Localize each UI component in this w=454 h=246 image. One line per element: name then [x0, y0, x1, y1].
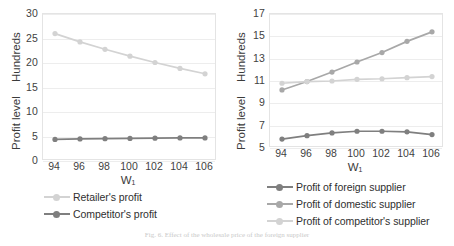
left-y-axis-unit-label: Hundreds — [10, 32, 22, 82]
figure-container: Profit level Hundreds 051015202530 94969… — [0, 0, 454, 246]
left-chart-series-layer — [43, 14, 215, 159]
data-point — [329, 78, 334, 83]
right-x-axis-label: W₁ — [348, 161, 363, 173]
data-point — [77, 39, 82, 44]
x-axis-tick-label: 98 — [325, 147, 337, 159]
legend-marker-icon — [267, 199, 293, 209]
x-axis-tick-label: 98 — [98, 160, 110, 172]
legend-item-label: Profit of domestic supplier — [296, 198, 415, 210]
x-axis-tick-label: 104 — [170, 160, 188, 172]
y-axis-tick-label: 30 — [26, 7, 38, 19]
data-point — [77, 136, 82, 141]
y-axis-tick-label: 25 — [26, 32, 38, 44]
right-chart-y-axis-title: Profit level — [235, 96, 247, 150]
x-axis-tick-label: 106 — [422, 147, 440, 159]
data-point — [304, 79, 309, 84]
legend-marker-icon — [44, 192, 70, 202]
data-point — [177, 135, 182, 140]
left-chart-y-axis-title: Profit level — [10, 96, 22, 150]
legend-item[interactable]: Competitor's profit — [44, 207, 157, 221]
legend-marker-icon — [44, 209, 70, 219]
y-axis-tick-label: 10 — [26, 105, 38, 117]
y-axis-tick-label: 9 — [259, 96, 265, 108]
series-1 — [279, 129, 434, 142]
right-chart-y-axis-unit: Hundreds — [235, 32, 247, 82]
y-axis-tick-label: 5 — [259, 141, 265, 153]
y-axis-tick-label: 0 — [32, 154, 38, 166]
data-point — [177, 66, 182, 71]
x-axis-tick-label: 102 — [372, 147, 390, 159]
x-axis-tick-label: 106 — [195, 160, 213, 172]
data-point — [379, 76, 384, 81]
legend-marker-icon — [267, 182, 293, 192]
x-axis-tick-label: 94 — [48, 160, 60, 172]
figure-caption: Fig. 6. Effect of the wholesale price of… — [0, 231, 454, 239]
y-axis-tick-label: 13 — [253, 52, 265, 64]
x-axis-tick-label: 100 — [120, 160, 138, 172]
data-point — [379, 50, 384, 55]
data-point — [429, 132, 434, 137]
left-chart-legend: Retailer's profitCompetitor's profit — [44, 190, 157, 224]
data-point — [127, 54, 132, 59]
x-axis-tick-label: 96 — [300, 147, 312, 159]
series-1 — [52, 31, 207, 76]
legend-item-label: Profit of foreign supplier — [296, 181, 406, 193]
legend-item-label: Retailer's profit — [73, 191, 142, 203]
right-chart-x-axis-title: W₁ — [348, 161, 363, 173]
data-point — [152, 60, 157, 65]
data-point — [152, 136, 157, 141]
series-2 — [52, 135, 207, 142]
data-point — [304, 133, 309, 138]
x-axis-tick-label: 96 — [73, 160, 85, 172]
legend-item[interactable]: Retailer's profit — [44, 190, 157, 204]
x-axis-tick-label: 94 — [275, 147, 287, 159]
x-axis-tick-label: 100 — [347, 147, 365, 159]
data-point — [429, 74, 434, 79]
legend-item-label: Competitor's profit — [73, 208, 157, 220]
y-axis-tick-label: 15 — [253, 29, 265, 41]
x-axis-tick-label: 104 — [397, 147, 415, 159]
y-axis-tick-label: 20 — [26, 56, 38, 68]
data-point — [102, 47, 107, 52]
y-axis-tick-label: 11 — [254, 74, 265, 86]
data-point — [52, 31, 57, 36]
legend-item[interactable]: Profit of domestic supplier — [267, 197, 430, 211]
data-point — [329, 69, 334, 74]
data-point — [52, 137, 57, 142]
series-2 — [279, 29, 434, 92]
chart-panel-right: Profit level Hundreds 57911131517 949698… — [227, 0, 454, 230]
data-point — [354, 59, 359, 64]
data-point — [429, 29, 434, 34]
left-y-axis-label: Profit level — [10, 96, 22, 150]
y-axis-tick-label: 5 — [32, 130, 38, 142]
data-point — [354, 77, 359, 82]
left-chart-x-axis-title: W₁ — [121, 174, 136, 186]
legend-item[interactable]: Profit of competitor's supplier — [267, 214, 430, 228]
y-axis-tick-label: 15 — [26, 81, 38, 93]
data-point — [379, 129, 384, 134]
left-chart-plot-area — [42, 13, 216, 160]
x-axis-tick-label: 102 — [145, 160, 163, 172]
data-point — [202, 71, 207, 76]
data-point — [102, 136, 107, 141]
data-point — [127, 136, 132, 141]
data-point — [404, 129, 409, 134]
legend-marker-icon — [267, 216, 293, 226]
right-chart-plot-area — [269, 13, 443, 147]
left-x-axis-label: W₁ — [121, 174, 136, 186]
data-point — [202, 135, 207, 140]
y-axis-tick-label: 17 — [253, 7, 265, 19]
right-chart-legend: Profit of foreign supplierProfit of dome… — [267, 180, 430, 231]
data-point — [329, 130, 334, 135]
right-y-axis-label: Profit level — [235, 96, 247, 150]
chart-panel-left: Profit level Hundreds 051015202530 94969… — [0, 0, 227, 230]
right-y-axis-unit-label: Hundreds — [235, 32, 247, 82]
data-point — [279, 81, 284, 86]
data-point — [279, 87, 284, 92]
data-point — [404, 75, 409, 80]
data-point — [279, 136, 284, 141]
legend-item[interactable]: Profit of foreign supplier — [267, 180, 430, 194]
data-point — [404, 39, 409, 44]
right-chart-series-layer — [270, 14, 442, 146]
y-axis-tick-label: 7 — [259, 119, 265, 131]
